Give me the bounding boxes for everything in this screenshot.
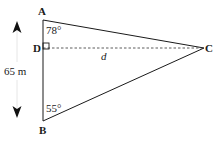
- label-point-c: C: [205, 42, 213, 54]
- length-ab-label: 65 m: [4, 65, 27, 77]
- angle-a-label: 78°: [46, 24, 61, 36]
- angle-b-label: 55°: [46, 102, 61, 114]
- label-point-b: B: [39, 124, 47, 136]
- label-point-d: D: [33, 42, 41, 54]
- side-bc: [43, 48, 204, 121]
- label-point-a: A: [38, 5, 46, 17]
- distance-d-label: d: [101, 50, 107, 62]
- triangle-diagram: A B C D 78° 55° 65 m d: [0, 0, 218, 141]
- side-ac: [43, 20, 204, 48]
